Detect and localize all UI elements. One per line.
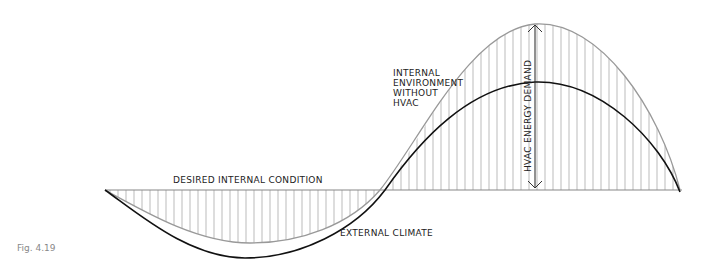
figure-caption: Fig. 4.19 [17, 243, 56, 253]
diagram-canvas: DESIRED INTERNAL CONDITION INTERNAL ENVI… [0, 0, 716, 275]
internal-env-label-4: HVAC [393, 98, 419, 108]
internal-env-label-2: ENVIRONMENT [393, 78, 463, 88]
hvac-demand-label: HVAC ENERGY DEMAND [523, 60, 533, 172]
hvac-demand-diagram: DESIRED INTERNAL CONDITION INTERNAL ENVI… [0, 0, 716, 275]
internal-environment-curve [105, 24, 680, 243]
desired-condition-label: DESIRED INTERNAL CONDITION [173, 175, 323, 185]
hatch-lower [110, 190, 382, 250]
external-climate-label: EXTERNAL CLIMATE [340, 228, 433, 238]
internal-env-label-3: WITHOUT [393, 88, 438, 98]
internal-env-label-1: INTERNAL [393, 68, 440, 78]
hatch-upper [385, 15, 681, 190]
